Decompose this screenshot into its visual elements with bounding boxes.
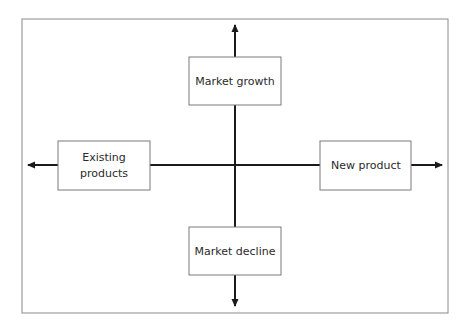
box-label: Market growth xyxy=(195,75,275,88)
box-new-product: New product xyxy=(320,141,411,190)
box-existing-products: Existing products xyxy=(58,141,150,190)
box-market-decline: Market decline xyxy=(189,227,281,275)
box-label: New product xyxy=(331,159,401,172)
box-label: Market decline xyxy=(195,245,276,258)
box-market-growth: Market growth xyxy=(189,57,281,105)
box-label-line-2: products xyxy=(80,167,128,180)
diagram-canvas: Market growth Existing products New prod… xyxy=(0,0,470,322)
box-label-line-1: Existing xyxy=(82,151,126,164)
